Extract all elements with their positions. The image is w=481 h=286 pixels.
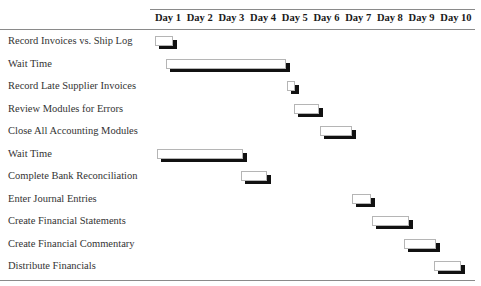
task-label: Record Invoices vs. Ship Log bbox=[8, 35, 133, 46]
task-bar bbox=[434, 261, 466, 276]
bar-box bbox=[241, 171, 267, 181]
bar-box bbox=[155, 36, 173, 46]
day-header: Day 4 bbox=[250, 12, 276, 23]
bar-box bbox=[157, 149, 243, 159]
day-header: Day 7 bbox=[345, 12, 371, 23]
task-label: Record Late Supplier Invoices bbox=[8, 80, 136, 91]
bar-box bbox=[287, 81, 296, 91]
bar-box bbox=[434, 261, 462, 271]
task-bar bbox=[372, 216, 413, 231]
task-label: Create Financial Commentary bbox=[8, 238, 135, 249]
bar-box bbox=[294, 104, 318, 114]
bar-box bbox=[404, 239, 436, 249]
task-bar bbox=[287, 81, 300, 96]
day-header: Day 5 bbox=[282, 12, 308, 23]
bar-box bbox=[166, 59, 285, 69]
day-header: Day 3 bbox=[218, 12, 244, 23]
day-header: Day 9 bbox=[409, 12, 435, 23]
day-header: Day 8 bbox=[377, 12, 403, 23]
task-label: Create Financial Statements bbox=[8, 215, 126, 226]
task-bar bbox=[294, 104, 322, 119]
bar-box bbox=[372, 216, 409, 226]
task-label: Distribute Financials bbox=[8, 260, 96, 271]
bar-box bbox=[320, 126, 352, 136]
task-bar bbox=[320, 126, 356, 141]
day-header: Day 6 bbox=[314, 12, 340, 23]
day-header: Day 2 bbox=[187, 12, 213, 23]
task-bar bbox=[241, 171, 271, 186]
task-bar bbox=[352, 194, 376, 209]
task-label: Close All Accounting Modules bbox=[8, 125, 138, 136]
top-rule bbox=[150, 9, 475, 10]
day-header: Day 10 bbox=[440, 12, 471, 23]
task-label: Enter Journal Entries bbox=[8, 193, 97, 204]
task-bar bbox=[166, 59, 289, 74]
header-rule bbox=[0, 29, 475, 30]
bar-box bbox=[352, 194, 372, 204]
bottom-rule bbox=[0, 280, 475, 281]
task-bar bbox=[404, 239, 440, 254]
task-bar bbox=[157, 149, 247, 164]
task-label: Wait Time bbox=[8, 148, 52, 159]
task-label: Review Modules for Errors bbox=[8, 103, 123, 114]
day-header: Day 1 bbox=[155, 12, 181, 23]
task-bar bbox=[155, 36, 177, 51]
task-label: Complete Bank Reconciliation bbox=[8, 170, 137, 181]
task-label: Wait Time bbox=[8, 58, 52, 69]
